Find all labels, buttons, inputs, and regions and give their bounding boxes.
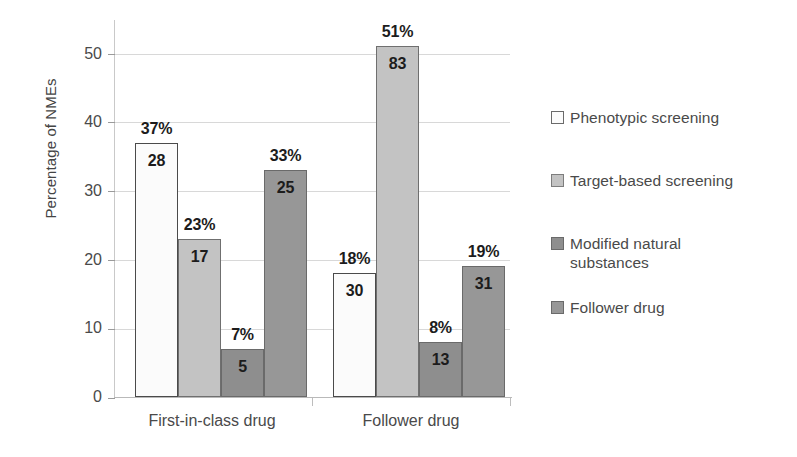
- legend-swatch-icon: [551, 174, 564, 187]
- bar-percent-label: 8%: [412, 319, 469, 337]
- y-tick-label-40: 40: [62, 114, 102, 130]
- bar-percent-label: 7%: [214, 326, 271, 344]
- legend-label: Target-based screening: [570, 171, 733, 190]
- bar-follower-drug-follower-drug[interactable]: 19% 31: [462, 266, 505, 397]
- y-tick-0: [108, 398, 115, 399]
- bar-follower-drug-modified-natural-substances[interactable]: 8% 13: [419, 342, 462, 397]
- legend-label: Modified natural: [570, 234, 681, 253]
- legend-swatch-icon: [551, 111, 564, 124]
- bar-count-label: 17: [179, 248, 220, 266]
- y-tick-label-10: 10: [62, 320, 102, 336]
- legend-item-follower-drug[interactable]: Follower drug: [551, 298, 795, 317]
- bar-count-label: 5: [222, 358, 263, 376]
- y-tick-20: [108, 260, 115, 261]
- y-axis-line: [114, 20, 115, 399]
- y-tick-label-0: 0: [62, 389, 102, 405]
- gridline-50: [114, 54, 510, 55]
- bar-chart: Percentage of NMEs 50 40 30 20 10 0 37% …: [0, 0, 797, 457]
- bar-count-label: 13: [420, 351, 461, 369]
- x-axis-category-tick: [510, 398, 511, 406]
- bar-percent-label: 18%: [326, 250, 383, 268]
- y-tick-40: [108, 122, 115, 123]
- y-tick-label-30: 30: [62, 183, 102, 199]
- bar-percent-label: 19%: [455, 243, 512, 261]
- legend-swatch-icon: [551, 237, 564, 250]
- y-tick-30: [108, 191, 115, 192]
- bar-follower-drug-phenotypic-screening[interactable]: 18% 30: [333, 273, 376, 397]
- bar-follower-drug-target-based-screening[interactable]: 51% 83: [376, 46, 419, 397]
- bar-percent-label: 51%: [369, 23, 426, 41]
- bar-first-in-class-follower-drug[interactable]: 33% 25: [264, 170, 307, 397]
- bar-count-label: 31: [463, 275, 504, 293]
- legend-label: Follower drug: [570, 298, 665, 317]
- plot-area: 37% 28 23% 17 7% 5 33% 25 18% 30 51% 83 …: [114, 20, 510, 398]
- legend-label: Phenotypic screening: [570, 108, 719, 127]
- bar-first-in-class-phenotypic-screening[interactable]: 37% 28: [135, 143, 178, 397]
- legend-item-modified-natural-substances[interactable]: Modified natural substances: [551, 234, 795, 272]
- bar-percent-label: 33%: [257, 147, 314, 165]
- y-axis-title: Percentage of NMEs: [42, 39, 59, 259]
- x-axis-category-tick: [312, 398, 313, 406]
- x-axis-label-follower-drug: Follower drug: [312, 412, 510, 430]
- y-tick-label-50: 50: [62, 46, 102, 62]
- bar-first-in-class-target-based-screening[interactable]: 23% 17: [178, 239, 221, 397]
- legend-swatch-icon: [551, 301, 564, 314]
- y-tick-label-20: 20: [62, 252, 102, 268]
- bar-percent-label: 37%: [128, 120, 185, 138]
- legend-label-line2: substances: [570, 253, 795, 272]
- bar-percent-label: 23%: [171, 216, 228, 234]
- y-tick-50: [108, 54, 115, 55]
- x-axis-label-first-in-class-drug: First-in-class drug: [113, 412, 311, 430]
- legend-item-phenotypic-screening[interactable]: Phenotypic screening: [551, 108, 795, 127]
- bar-count-label: 25: [265, 179, 306, 197]
- y-tick-10: [108, 329, 115, 330]
- bar-count-label: 83: [377, 55, 418, 73]
- x-axis-line: [114, 397, 512, 398]
- legend-item-target-based-screening[interactable]: Target-based screening: [551, 171, 795, 190]
- bar-count-label: 30: [334, 282, 375, 300]
- bar-first-in-class-modified-natural-substances[interactable]: 7% 5: [221, 349, 264, 397]
- bar-count-label: 28: [136, 152, 177, 170]
